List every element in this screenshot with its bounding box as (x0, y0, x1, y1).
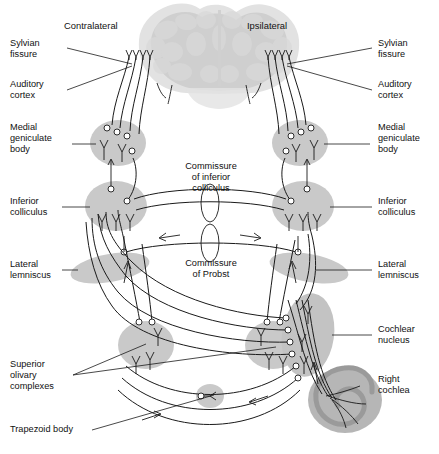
label-inferior-colliculus-right: Inferior colliculus (378, 196, 415, 218)
label-commissure-probst: Commissure of Probst (166, 258, 256, 280)
auditory-pathway-diagram (0, 0, 439, 454)
label-cochlear-nucleus: Cochlear nucleus (378, 324, 415, 346)
label-superior-olivary-complexes: Superior olivary complexes (10, 359, 54, 392)
label-medial-geniculate-right: Medial geniculate body (378, 122, 420, 155)
medial-geniculate-body-left (90, 120, 146, 166)
leader-trapezoid-body (92, 395, 214, 430)
label-inferior-colliculus-left: Inferior colliculus (10, 196, 47, 218)
label-sylvian-fissure-right: Sylvian fissure (378, 38, 408, 60)
label-medial-geniculate-left: Medial geniculate body (10, 122, 52, 155)
label-commissure-inferior-colliculus: Commissure of inferior colliculus (166, 161, 256, 194)
label-auditory-cortex-left: Auditory cortex (10, 79, 44, 101)
header-contralateral: Contralateral (64, 20, 118, 31)
label-right-cochlea: Right cochlea (378, 374, 410, 396)
label-auditory-cortex-right: Auditory cortex (378, 79, 412, 101)
label-lateral-lemniscus-right: Lateral lemniscus (378, 259, 419, 281)
label-trapezoid-body: Trapezoid body (10, 424, 73, 435)
header-ipsilateral: Ipsilateral (247, 20, 287, 31)
leader-soc-left-b (73, 347, 276, 375)
leader-sylvian-fissure-right (287, 48, 372, 64)
superior-olivary-complex-left (118, 321, 174, 369)
diagram-canvas (0, 0, 439, 454)
leader-auditory-cortex-right (287, 66, 372, 90)
leader-sylvian-fissure-left (67, 48, 132, 64)
leader-auditory-cortex-left (67, 66, 132, 90)
label-lateral-lemniscus-left: Lateral lemniscus (10, 259, 51, 281)
medial-geniculate-body-right (272, 120, 328, 166)
label-sylvian-fissure-left: Sylvian fissure (10, 38, 40, 60)
